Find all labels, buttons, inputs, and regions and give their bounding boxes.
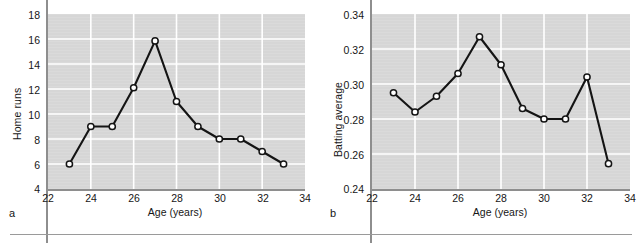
figure-divider-rule: [10, 234, 632, 235]
x-tick-b-22: 22: [359, 193, 385, 204]
x-axis-line-b: [370, 189, 630, 191]
x-tick-b-24: 24: [402, 193, 428, 204]
x-tick-b-32: 32: [574, 193, 600, 204]
x-tick-a-24: 24: [78, 193, 104, 204]
panel-label-a: a: [9, 208, 15, 219]
x-tick-a-32: 32: [250, 193, 276, 204]
x-axis-label-b: Age (years): [400, 206, 600, 218]
x-tick-b-34: 34: [617, 193, 642, 204]
x-tick-a-34: 34: [292, 193, 318, 204]
y-axis-label-b: Batting average: [332, 82, 344, 157]
x-tick-b-28: 28: [488, 193, 514, 204]
x-tick-a-26: 26: [121, 193, 147, 204]
x-axis-label-a: Age (years): [75, 206, 275, 218]
x-tick-b-26: 26: [445, 193, 471, 204]
plot-area-b: [372, 14, 630, 189]
figure-two-panel-line-charts: 18 16 14 12 10 8 6 4 22 24 26 28 30 32 3…: [0, 0, 642, 243]
y-tick-a-14: 14: [6, 60, 40, 71]
line-series-b: [372, 14, 630, 189]
panel-b: 0.34 0.32 0.30 0.28 0.26 0.24 22 24 26 2…: [321, 0, 642, 243]
panel-a: 18 16 14 12 10 8 6 4 22 24 26 28 30 32 3…: [0, 0, 321, 243]
panel-label-b: b: [330, 208, 336, 219]
x-tick-a-22: 22: [35, 193, 61, 204]
y-tick-a-16: 16: [6, 35, 40, 46]
x-tick-a-30: 30: [207, 193, 233, 204]
x-axis-line-a: [46, 189, 305, 191]
y-tick-b-032: 0.32: [326, 45, 364, 56]
x-tick-b-30: 30: [531, 193, 557, 204]
y-tick-a-6: 6: [6, 160, 40, 171]
y-axis-label-a: Home runs: [11, 88, 23, 140]
line-series-a: [48, 14, 305, 189]
plot-area-a: [48, 14, 305, 189]
x-tick-a-28: 28: [164, 193, 190, 204]
y-tick-b-034: 0.34: [326, 10, 364, 21]
y-tick-a-18: 18: [6, 10, 40, 21]
